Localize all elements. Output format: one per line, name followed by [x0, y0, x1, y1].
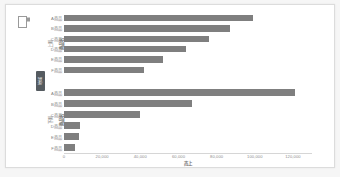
- x-axis-title: 売上: [64, 160, 312, 166]
- category-label: F商品: [35, 67, 62, 73]
- bar-row[interactable]: E商品: [64, 131, 312, 142]
- plot-area-lower: A商品B商品C商品D商品E商品F商品: [64, 87, 312, 153]
- chart-panel-upper: 上期 商品名 A商品B商品C商品D商品E商品F商品: [34, 13, 330, 75]
- category-label: D商品: [35, 46, 62, 52]
- bar-row[interactable]: D商品: [64, 120, 312, 131]
- x-axis-tick-label: 60,000: [172, 154, 185, 159]
- x-axis-tick-label: 100,000: [247, 154, 263, 159]
- x-axis: 020,00040,00060,00080,000100,000120,000 …: [64, 153, 312, 169]
- outer-axis-title-label: 地域: [31, 77, 51, 86]
- category-label: C商品: [35, 112, 62, 118]
- category-label: D商品: [35, 123, 62, 129]
- category-label: F商品: [35, 145, 62, 151]
- bar[interactable]: [64, 122, 80, 129]
- chart: 地域 上期 商品名 A商品B商品C商品D商品E商品F商品 下期 商品名 A商品B…: [34, 11, 330, 163]
- plot-area-upper: A商品B商品C商品D商品E商品F商品: [64, 13, 312, 75]
- bar[interactable]: [64, 144, 75, 151]
- bar[interactable]: [64, 133, 79, 140]
- bar[interactable]: [64, 89, 295, 96]
- category-label: A商品: [35, 15, 62, 21]
- bar[interactable]: [64, 100, 192, 107]
- category-label: B商品: [35, 25, 62, 31]
- x-axis-tick-label: 0: [63, 154, 65, 159]
- x-axis-tick-label: 20,000: [96, 154, 109, 159]
- bar-row[interactable]: C商品: [64, 109, 312, 120]
- category-label: B商品: [35, 101, 62, 107]
- bar[interactable]: [64, 15, 253, 21]
- bar[interactable]: [64, 46, 186, 52]
- bar[interactable]: [64, 56, 163, 62]
- bar[interactable]: [64, 25, 230, 31]
- category-label: C商品: [35, 36, 62, 42]
- bar-row[interactable]: E商品: [64, 54, 312, 64]
- category-label: E商品: [35, 134, 62, 140]
- category-label: A商品: [35, 90, 62, 96]
- document-corner-icon[interactable]: [18, 16, 31, 28]
- x-axis-tick-label: 40,000: [134, 154, 147, 159]
- bar[interactable]: [64, 36, 209, 42]
- bar-row[interactable]: A商品: [64, 13, 312, 23]
- chart-panel-lower: 下期 商品名 A商品B商品C商品D商品E商品F商品: [34, 87, 330, 153]
- bar-row[interactable]: C商品: [64, 34, 312, 44]
- bar[interactable]: [64, 111, 140, 118]
- x-axis-tick-label: 80,000: [210, 154, 223, 159]
- bar-row[interactable]: F商品: [64, 65, 312, 75]
- category-label: E商品: [35, 56, 62, 62]
- x-axis-tick-label: 120,000: [285, 154, 301, 159]
- bar[interactable]: [64, 67, 144, 73]
- bar-row[interactable]: B商品: [64, 98, 312, 109]
- screenshot-root: 地域 上期 商品名 A商品B商品C商品D商品E商品F商品 下期 商品名 A商品B…: [0, 0, 340, 177]
- bar-row[interactable]: B商品: [64, 23, 312, 33]
- bar-row[interactable]: F商品: [64, 142, 312, 153]
- document-panel: 地域 上期 商品名 A商品B商品C商品D商品E商品F商品 下期 商品名 A商品B…: [5, 4, 335, 168]
- bar-row[interactable]: D商品: [64, 44, 312, 54]
- bar-row[interactable]: A商品: [64, 87, 312, 98]
